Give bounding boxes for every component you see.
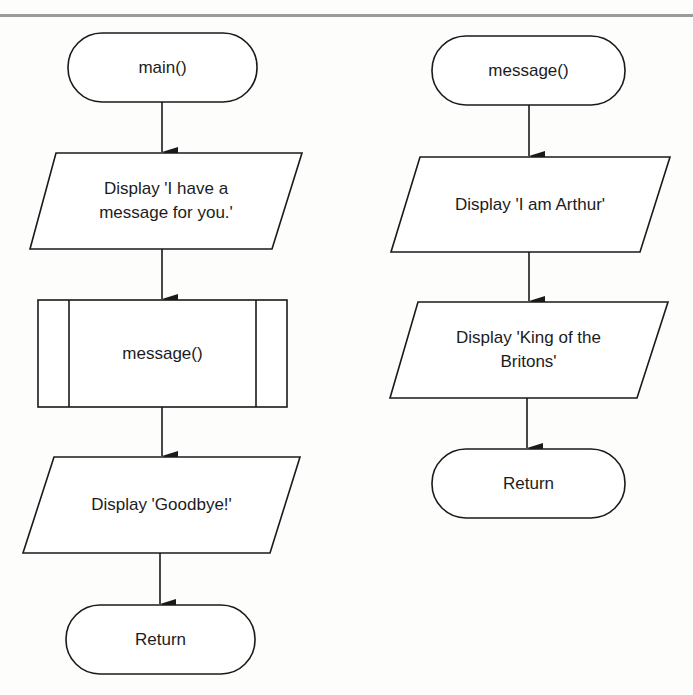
main-display-goodbye-label: Display 'Goodbye!'	[38, 457, 285, 553]
message-return-label: Return	[432, 449, 625, 518]
page: main() Display 'I have a message for you…	[0, 0, 693, 695]
message-display-arthur-label: Display 'I am Arthur'	[405, 157, 655, 252]
message-display-king-label: Display 'King of the Britons'	[404, 302, 653, 398]
main-call-message-label: message()	[69, 300, 256, 407]
message-start-label: message()	[432, 36, 625, 105]
main-display-message-label: Display 'I have a message for you.'	[43, 153, 289, 249]
main-start-label: main()	[68, 33, 257, 102]
main-return-label: Return	[66, 605, 255, 674]
message-flowchart	[390, 36, 670, 518]
